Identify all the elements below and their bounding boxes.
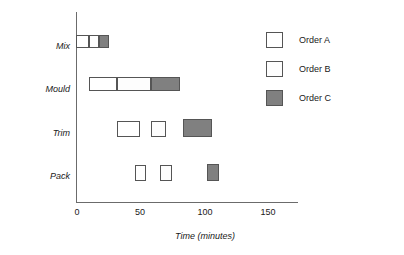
bar-mould-order-a — [89, 77, 117, 91]
legend-swatch-order-c — [266, 90, 283, 106]
x-tick-150: 150 — [260, 207, 275, 217]
legend-label-order-b: Order B — [299, 64, 331, 74]
bar-pack-order-b — [160, 165, 172, 181]
legend-swatch-order-a — [266, 32, 283, 48]
bar-trim-order-c — [183, 119, 212, 137]
x-tick-50: 50 — [135, 207, 145, 217]
bar-pack-order-a — [135, 165, 146, 181]
bar-mix-order-a — [76, 35, 89, 48]
legend-swatch-order-b — [266, 61, 283, 77]
x-tick-0: 0 — [74, 207, 79, 217]
bar-mix-order-b — [89, 35, 99, 48]
legend-label-order-a: Order A — [299, 35, 330, 45]
x-axis-title: Time (minutes) — [0, 231, 404, 241]
x-axis-line — [76, 202, 298, 203]
bar-pack-order-c — [207, 164, 219, 181]
bar-trim-order-b — [151, 121, 166, 137]
bar-trim-order-a — [117, 121, 140, 137]
row-label-mix: Mix — [10, 41, 70, 51]
legend-label-order-c: Order C — [299, 93, 331, 103]
row-label-mould: Mould — [10, 84, 70, 94]
x-axis-title-text: Time (minutes) — [175, 231, 235, 241]
bar-mould-order-b — [117, 77, 151, 91]
bar-mould-order-c — [151, 77, 180, 91]
row-label-trim: Trim — [10, 128, 70, 138]
row-label-pack: Pack — [10, 171, 70, 181]
gantt-chart: Mix Mould Trim Pack 0 50 100 150 Time (m… — [0, 0, 404, 255]
bar-mix-order-c — [99, 35, 109, 48]
x-tick-100: 100 — [197, 207, 212, 217]
